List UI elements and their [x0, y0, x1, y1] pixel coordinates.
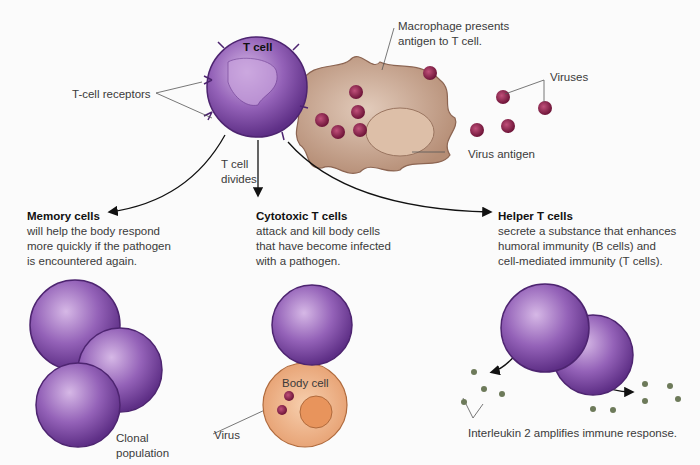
cytotoxic-line: attack and kill body cells	[256, 224, 391, 239]
cytotoxic-interaction	[263, 285, 352, 447]
memory-cells-title: Memory cells	[27, 209, 171, 224]
helper-cells-description: Helper T cells secrete a substance that …	[498, 209, 676, 269]
interleukin-label: Interleukin 2 amplifies immune response.	[468, 426, 677, 441]
macrophage-label-line1: Macrophage presents	[398, 19, 509, 34]
helper-line: secrete a substance that enhances	[498, 224, 676, 239]
helper-cell-pair	[501, 284, 633, 395]
memory-line: is encountered again.	[27, 254, 171, 269]
t-cell-divides-label: T cell divides	[221, 157, 257, 187]
virus-antigen-label: Virus antigen	[468, 147, 535, 162]
memory-line: more quickly if the pathogen	[27, 239, 171, 254]
body-cell-label: Body cell	[282, 376, 329, 391]
memory-cell-cluster	[30, 280, 162, 447]
divides-line2: divides	[221, 172, 257, 187]
macrophage-label-line2: antigen to T cell.	[398, 34, 509, 49]
clonal-line2: population	[116, 446, 169, 461]
t-cell-label: T cell	[243, 40, 272, 55]
helper-line: cell-mediated immunity (T cells).	[498, 254, 676, 269]
memory-line: will help the body respond	[27, 224, 171, 239]
helper-cells-title: Helper T cells	[498, 209, 676, 224]
viruses-label: Viruses	[550, 70, 588, 85]
virus-label: Virus	[214, 428, 240, 443]
cytotoxic-line: with a pathogen.	[256, 254, 391, 269]
helper-line: humoral immunity (B cells) and	[498, 239, 676, 254]
clonal-population-label: Clonal population	[116, 431, 169, 461]
t-cell-receptors-label: T-cell receptors	[72, 87, 151, 102]
clonal-line1: Clonal	[116, 431, 169, 446]
macrophage-label: Macrophage presents antigen to T cell.	[398, 19, 509, 49]
memory-cells-description: Memory cells will help the body respond …	[27, 209, 171, 269]
cytotoxic-cells-description: Cytotoxic T cells attack and kill body c…	[256, 209, 391, 269]
divides-line1: T cell	[221, 157, 257, 172]
cytotoxic-line: that have become infected	[256, 239, 391, 254]
cytotoxic-cells-title: Cytotoxic T cells	[256, 209, 391, 224]
